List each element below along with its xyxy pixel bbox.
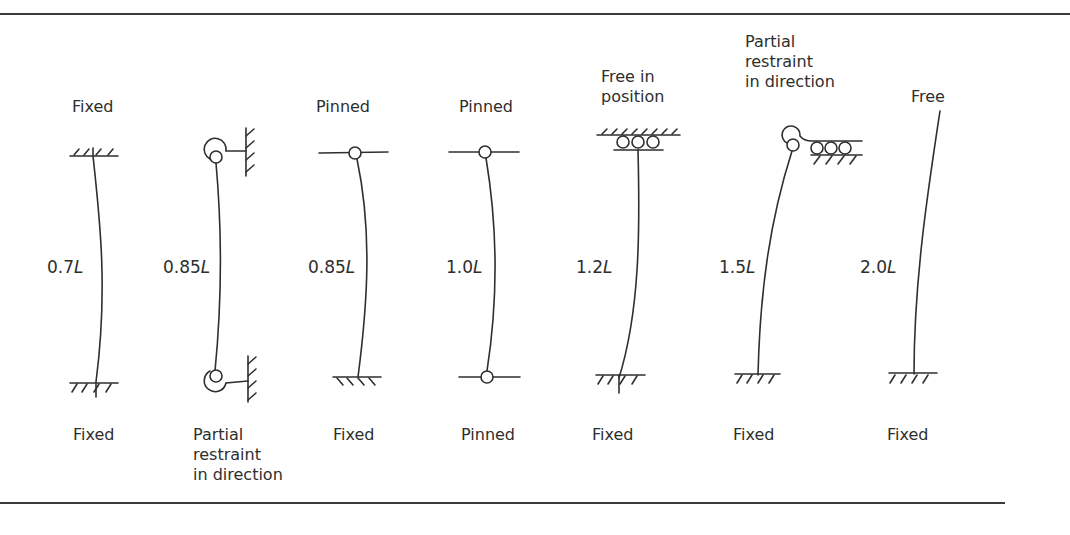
column-1-fixed-fixed	[70, 148, 118, 397]
column-6-partial-fixed	[735, 126, 862, 383]
column-3-buckled-shape	[357, 159, 367, 377]
column-4-pinned-pinned	[449, 146, 520, 383]
column-3-pinned-fixed	[319, 147, 388, 385]
column-7-free-fixed	[889, 111, 940, 383]
column-2-buckled-shape	[215, 163, 220, 371]
pin-top-icon	[349, 147, 361, 159]
column-2-partial-restraint	[204, 128, 256, 402]
pin-top-icon	[479, 146, 491, 158]
column-5-free-position-fixed	[596, 129, 680, 393]
column-7-buckled-shape	[914, 111, 940, 374]
pin-bottom-icon	[481, 371, 493, 383]
column-5-buckled-shape	[619, 150, 639, 378]
columns-diagram	[0, 0, 1070, 535]
column-6-buckled-shape	[758, 151, 792, 375]
column-1-buckled-shape	[93, 156, 102, 382]
column-4-buckled-shape	[486, 158, 495, 371]
